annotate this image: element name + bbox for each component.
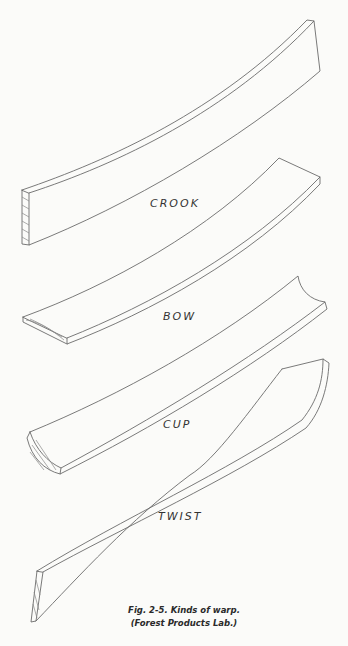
- caption-line-2: (Forest Products Lab.): [20, 617, 348, 630]
- figure-caption: Fig. 2-5. Kinds of warp. (Forest Product…: [0, 604, 348, 630]
- cup-label: CUP: [163, 418, 191, 431]
- bow-label: BOW: [163, 310, 196, 323]
- crook-board: [22, 20, 320, 245]
- twist-board: [31, 359, 329, 622]
- caption-line-1: Fig. 2-5. Kinds of warp.: [20, 604, 348, 617]
- twist-label: TWIST: [158, 510, 203, 523]
- warp-diagram: [0, 0, 348, 646]
- cup-board: [27, 276, 327, 474]
- crook-label: CROOK: [150, 197, 200, 210]
